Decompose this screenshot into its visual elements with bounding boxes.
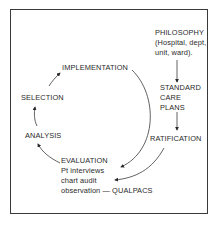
arrow-evaluation-to-analysis — [38, 144, 60, 163]
philosophy-line: unit, ward). — [155, 48, 206, 58]
node-standard-care-plans: STANDARD CARE PLANS — [160, 83, 201, 113]
node-implementation: IMPLEMENTATION — [62, 63, 128, 73]
arrow-selection-to-implementation — [49, 73, 60, 86]
node-analysis: ANALYSIS — [25, 131, 61, 141]
standard-line: PLANS — [160, 103, 201, 113]
node-evaluation: EVALUATION Pt interviews chart audit obs… — [61, 156, 153, 196]
node-philosophy: PHILOSOPHY (Hospital, dept, unit, ward). — [155, 28, 206, 58]
evaluation-line: chart audit — [61, 176, 153, 186]
selection-title: SELECTION — [21, 93, 64, 103]
philosophy-line: (Hospital, dept, — [155, 38, 206, 48]
implementation-title: IMPLEMENTATION — [62, 63, 128, 73]
node-ratification: RATIFICATION — [150, 134, 201, 144]
evaluation-title: EVALUATION — [61, 156, 153, 166]
evaluation-line: Pt interviews — [61, 166, 153, 176]
arrow-implementation-to-evaluation — [121, 70, 150, 167]
arrow-analysis-to-selection — [34, 107, 37, 126]
philosophy-title: PHILOSOPHY — [155, 28, 206, 38]
node-selection: SELECTION — [21, 93, 64, 103]
standard-line: CARE — [160, 93, 201, 103]
standard-line: STANDARD — [160, 83, 201, 93]
ratification-title: RATIFICATION — [150, 134, 201, 144]
evaluation-line: observation — QUALPACS — [61, 186, 153, 196]
analysis-title: ANALYSIS — [25, 131, 61, 141]
